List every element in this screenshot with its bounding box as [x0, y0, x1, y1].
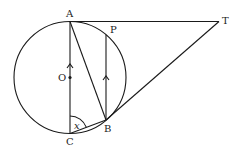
label-angle-x: x [74, 120, 80, 131]
tangent-TB [106, 22, 219, 121]
label-C: C [66, 136, 74, 147]
label-B: B [104, 123, 111, 134]
circle-tangent-diagram: A P T O B C x [0, 0, 237, 149]
center-dot-O [68, 76, 71, 79]
label-O: O [58, 72, 66, 83]
label-T: T [222, 15, 229, 26]
label-A: A [65, 8, 74, 19]
label-P: P [110, 24, 117, 35]
chord-AB [70, 22, 106, 121]
